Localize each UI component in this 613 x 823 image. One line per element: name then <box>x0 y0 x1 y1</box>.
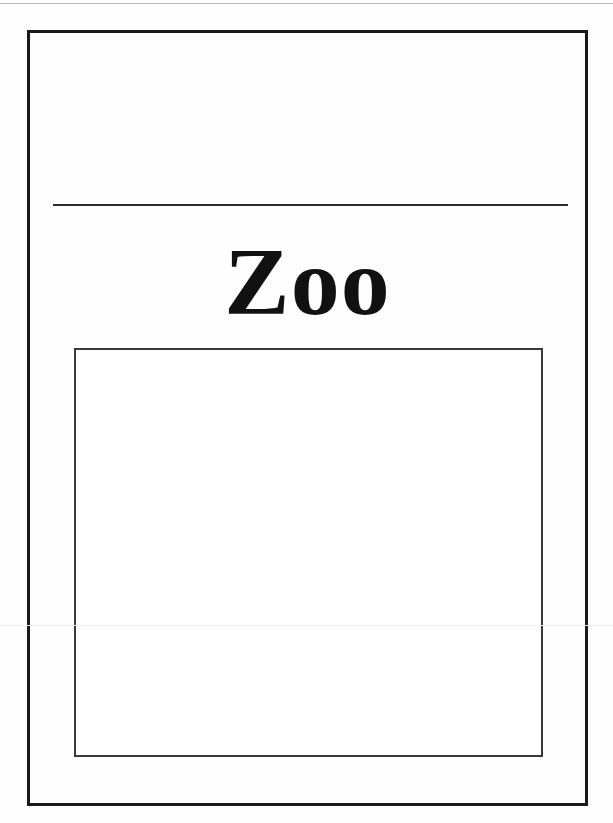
scan-edge-line <box>0 3 613 4</box>
scanned-page: Zoo <box>0 0 613 823</box>
page-title: Zoo <box>30 214 585 324</box>
drawing-area-content[interactable] <box>76 350 541 755</box>
upper-blank-region <box>60 66 613 234</box>
title-rule-line <box>53 204 568 206</box>
scan-banding-artifact <box>0 625 613 626</box>
drawing-box[interactable] <box>74 348 543 757</box>
title-word-text: Zoo <box>224 240 390 324</box>
